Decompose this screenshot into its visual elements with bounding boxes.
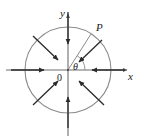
angle-theta-label: θ	[73, 62, 78, 72]
figure-canvas	[0, 0, 141, 140]
origin-point	[67, 69, 69, 71]
vector-inward-upper-left	[33, 36, 58, 60]
y-axis-label: y	[60, 8, 65, 19]
origin-label: 0	[57, 73, 62, 83]
point-p-label: P	[96, 22, 103, 33]
radius-line-to-p	[68, 34, 91, 70]
vector-inward-lower-right	[79, 81, 104, 105]
vector-inward-along-radius-p	[79, 40, 102, 62]
vector-field-figure: y x P θ 0	[0, 0, 141, 140]
vector-inward-lower-left	[33, 81, 58, 105]
x-axis-label: x	[128, 71, 133, 82]
